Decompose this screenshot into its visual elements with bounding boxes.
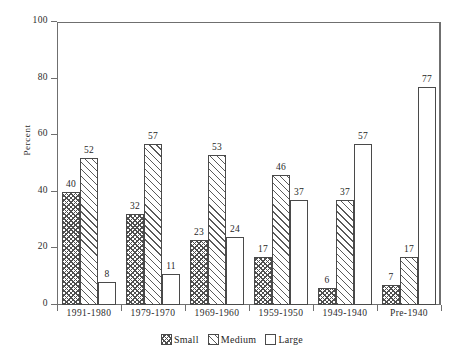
- bar-value-label: 7: [388, 272, 393, 282]
- bar-large[interactable]: 8: [98, 282, 116, 305]
- bars-layer: 405283257112353241746376375771777: [57, 22, 441, 305]
- bar-small[interactable]: 32: [126, 214, 144, 305]
- bar-value-label: 6: [324, 275, 329, 285]
- x-axis-tick: [313, 305, 314, 311]
- y-tick-label: 100: [33, 15, 48, 25]
- bar-value-label: 46: [276, 162, 286, 172]
- x-axis-tick: [121, 305, 122, 311]
- bar-medium[interactable]: 37: [336, 200, 354, 305]
- bar-group: 325711: [126, 22, 180, 305]
- y-tick-label: 20: [38, 241, 48, 251]
- chart-legend: SmallMediumLarge: [0, 334, 464, 345]
- bar-large[interactable]: 77: [418, 87, 436, 305]
- bar-group: 235324: [190, 22, 244, 305]
- bar-medium[interactable]: 57: [144, 144, 162, 305]
- bar-value-label: 8: [104, 269, 109, 279]
- legend-swatch-large-icon: [265, 334, 276, 345]
- bar-value-label: 17: [258, 244, 268, 254]
- legend-swatch-medium-icon: [208, 334, 219, 345]
- legend-label: Large: [278, 334, 303, 345]
- y-tick-label: 40: [38, 185, 48, 195]
- legend-item-small[interactable]: Small: [161, 334, 199, 345]
- bar-small[interactable]: 7: [382, 285, 400, 305]
- bar-value-label: 17: [404, 244, 414, 254]
- x-axis-label: Pre-1940: [390, 308, 428, 318]
- bar-large[interactable]: 24: [226, 237, 244, 305]
- bar-small[interactable]: 17: [254, 257, 272, 305]
- bar-value-label: 23: [194, 227, 204, 237]
- x-axis-tick: [377, 305, 378, 311]
- x-axis-tick: [441, 305, 442, 311]
- legend-item-medium[interactable]: Medium: [208, 334, 257, 345]
- x-axis-tick: [57, 305, 58, 311]
- bar-value-label: 57: [358, 131, 368, 141]
- bar-medium[interactable]: 17: [400, 257, 418, 305]
- bar-small[interactable]: 40: [62, 192, 80, 305]
- bar-value-label: 37: [294, 187, 304, 197]
- bar-value-label: 24: [230, 224, 240, 234]
- bar-value-label: 53: [212, 142, 222, 152]
- bar-large[interactable]: 57: [354, 144, 372, 305]
- bar-medium[interactable]: 46: [272, 175, 290, 305]
- bar-group: 174637: [254, 22, 308, 305]
- x-axis-label: 1991-1980: [67, 308, 112, 318]
- legend-swatch-small-icon: [161, 334, 172, 345]
- bar-large[interactable]: 37: [290, 200, 308, 305]
- bar-large[interactable]: 11: [162, 274, 180, 305]
- legend-label: Medium: [221, 334, 257, 345]
- bar-small[interactable]: 6: [318, 288, 336, 305]
- bar-value-label: 40: [66, 179, 76, 189]
- chart-figure: Percent 020406080100 4052832571123532417…: [0, 0, 464, 361]
- x-axis-label: 1949-1940: [323, 308, 368, 318]
- y-tick-label: 60: [38, 128, 48, 138]
- bar-value-label: 57: [148, 131, 158, 141]
- bar-group: 63757: [318, 22, 372, 305]
- bar-medium[interactable]: 53: [208, 155, 226, 305]
- bar-small[interactable]: 23: [190, 240, 208, 305]
- x-axis-tick: [185, 305, 186, 311]
- bar-value-label: 32: [130, 201, 140, 211]
- x-axis-tick: [249, 305, 250, 311]
- bar-group: 40528: [62, 22, 116, 305]
- bar-medium[interactable]: 52: [80, 158, 98, 305]
- bar-group: 71777: [382, 22, 436, 305]
- bar-value-label: 37: [340, 187, 350, 197]
- bar-value-label: 11: [166, 261, 176, 271]
- x-axis-label: 1959-1950: [259, 308, 304, 318]
- x-axis-label: 1979-1970: [131, 308, 176, 318]
- bar-value-label: 77: [422, 74, 432, 84]
- x-axis-label: 1969-1960: [195, 308, 240, 318]
- y-axis-title: Percent: [22, 100, 32, 180]
- bar-value-label: 52: [84, 145, 94, 155]
- y-tick-label: 0: [43, 298, 48, 308]
- legend-item-large[interactable]: Large: [265, 334, 303, 345]
- legend-label: Small: [174, 334, 199, 345]
- y-tick-label: 80: [38, 72, 48, 82]
